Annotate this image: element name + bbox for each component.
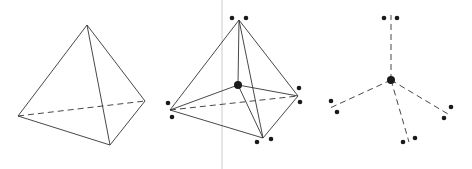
- panel-tetrahedron: [18, 25, 145, 145]
- diagram-canvas: [0, 0, 472, 169]
- central-atom: [387, 76, 395, 84]
- central-atom: [234, 81, 242, 89]
- panel-tetrahedron-with-center: [170, 20, 298, 138]
- electron-dots-panel2: [166, 16, 303, 145]
